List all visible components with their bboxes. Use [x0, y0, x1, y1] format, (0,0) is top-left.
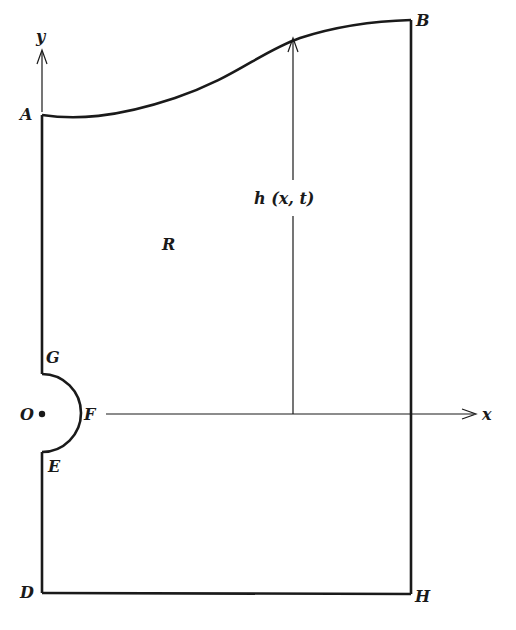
- label-F: F: [83, 405, 97, 424]
- label-G: G: [46, 348, 60, 367]
- label-E: E: [47, 457, 61, 476]
- label-region-R: R: [161, 235, 175, 254]
- boundary-DH: [42, 593, 411, 594]
- label-H: H: [414, 587, 431, 606]
- boundary-semicircle-GFE: [42, 374, 81, 452]
- label-D: D: [19, 583, 34, 602]
- label-A: A: [18, 105, 32, 124]
- label-y-axis: y: [35, 27, 47, 46]
- label-x-axis: x: [481, 405, 492, 424]
- origin-dot-icon: [39, 411, 45, 417]
- label-height: h (x, t): [254, 189, 314, 208]
- free-surface-AB: [42, 20, 411, 117]
- domain-diagram: y x h (x, t) A B D H G E F O R: [0, 0, 516, 630]
- label-B: B: [415, 11, 430, 30]
- label-O: O: [20, 405, 34, 424]
